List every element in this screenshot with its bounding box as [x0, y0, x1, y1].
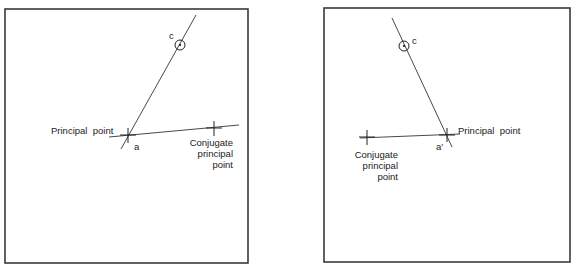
right-photo-panel: c a′ Principal point Conjugate principal…	[324, 8, 570, 262]
right-point-c-circle-icon	[399, 41, 409, 51]
left-label-conjugate-3: point	[212, 159, 233, 170]
left-radial-line	[121, 15, 196, 149]
right-principal-point-cross-icon	[439, 128, 455, 142]
left-photo-panel: c a Principal point Conjugate principal …	[5, 9, 248, 263]
right-radial-line	[392, 18, 452, 147]
left-point-c-circle-icon	[175, 40, 185, 50]
left-label-conjugate-2: principal	[198, 148, 233, 159]
left-label-conjugate-1: Conjugate	[190, 137, 233, 148]
right-label-conjugate-1: Conjugate	[355, 149, 398, 160]
left-label-a: a	[134, 141, 140, 152]
right-label-a-prime: a′	[436, 141, 443, 152]
left-conjugate-point-cross-icon	[206, 121, 222, 136]
left-label-c: c	[169, 30, 174, 41]
right-label-c: c	[412, 35, 417, 46]
right-label-conjugate-2: principal	[363, 160, 398, 171]
stereo-pair-diagram: c a Principal point Conjugate principal …	[0, 0, 574, 268]
right-label-principal-point: Principal point	[458, 125, 521, 136]
right-conjugate-point-cross-icon	[359, 130, 375, 145]
left-photo-frame	[5, 9, 248, 263]
left-label-principal-point: Principal point	[51, 125, 114, 136]
right-label-conjugate-3: point	[377, 171, 398, 182]
